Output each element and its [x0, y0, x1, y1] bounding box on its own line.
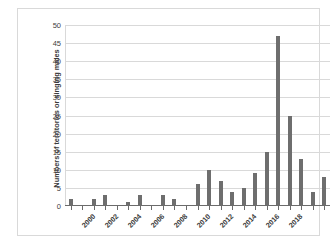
x-axis-tick — [105, 206, 106, 210]
x-axis-tick — [209, 206, 210, 210]
bars-group — [65, 25, 330, 206]
x-axis-tick-label: 2000 — [79, 212, 97, 230]
y-axis-tick-label: 30 — [53, 93, 61, 102]
x-axis-tick — [301, 206, 302, 210]
x-axis-tick — [313, 206, 314, 210]
y-axis-tick-label: 25 — [53, 111, 61, 120]
x-axis-tick — [198, 206, 199, 210]
x-axis-tick — [94, 206, 95, 210]
bar-chart-figure: Numbers of territories or singing males … — [0, 0, 333, 244]
x-axis-tick — [255, 206, 256, 210]
x-axis-tick — [163, 206, 164, 210]
x-axis-tick — [151, 206, 152, 210]
x-axis-tick — [267, 206, 268, 210]
y-axis-tick-label: 5 — [57, 183, 61, 192]
x-axis-tick-label: 2018 — [287, 212, 305, 230]
x-axis-tick — [128, 206, 129, 210]
x-axis-tick — [174, 206, 175, 210]
y-axis-tick-label: 40 — [53, 57, 61, 66]
bar — [253, 173, 257, 206]
x-axis-tick-label: 2008 — [172, 212, 190, 230]
bar — [322, 177, 326, 206]
chart-frame: Numbers of territories or singing males … — [17, 8, 320, 236]
x-axis-tick-label: 2006 — [149, 212, 167, 230]
x-axis-tick — [244, 206, 245, 210]
x-axis-tick-label: 2002 — [102, 212, 120, 230]
y-axis-tick-label: 50 — [53, 21, 61, 30]
y-axis-tick-label: 10 — [53, 165, 61, 174]
x-axis-tick — [186, 206, 187, 210]
bar — [276, 36, 280, 206]
x-axis-tick-label: 2012 — [218, 212, 236, 230]
x-axis-tick-label: 2010 — [195, 212, 213, 230]
bar — [219, 181, 223, 206]
bar — [311, 192, 315, 206]
x-axis-tick — [140, 206, 141, 210]
x-axis-tick — [232, 206, 233, 210]
x-axis-tick — [221, 206, 222, 210]
y-axis-tick-label: 35 — [53, 75, 61, 84]
bar — [207, 170, 211, 206]
x-axis-tick — [324, 206, 325, 210]
x-axis-tick-label: 2016 — [264, 212, 282, 230]
x-axis-tick-label: 2004 — [126, 212, 144, 230]
bar — [288, 116, 292, 207]
x-axis-tick — [117, 206, 118, 210]
bar — [196, 184, 200, 206]
bar — [242, 188, 246, 206]
y-axis-tick-label: 0 — [57, 202, 61, 211]
y-axis-tick-label: 20 — [53, 129, 61, 138]
x-axis-tick — [82, 206, 83, 210]
x-axis-tick — [290, 206, 291, 210]
bar — [230, 192, 234, 206]
x-axis-tick — [71, 206, 72, 210]
x-axis-tick-label: 2014 — [241, 212, 259, 230]
x-axis-tick — [278, 206, 279, 210]
y-axis-tick-label: 45 — [53, 39, 61, 48]
bar — [299, 159, 303, 206]
bar — [265, 152, 269, 206]
plot-area: 05101520253035404550 2000200220042006200… — [65, 25, 330, 206]
y-axis-tick-label: 15 — [53, 147, 61, 156]
